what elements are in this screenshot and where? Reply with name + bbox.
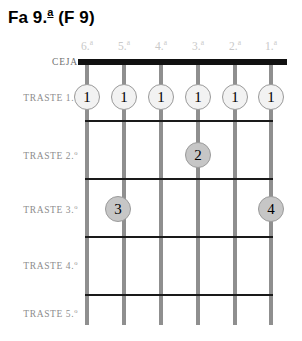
fingering-dots: 1 1 1 1 1 1 2 3 4 [0,0,302,341]
chord-diagram: Fa 9.a (F 9) 6.a 5.a 4.a 3.a 2.a 1.a CEJ… [0,0,302,341]
finger-dot-string4-fret1[interactable]: 1 [148,84,174,110]
finger-dot-string3-fret1[interactable]: 1 [185,84,211,110]
finger-dot-string2-fret1[interactable]: 1 [222,84,248,110]
finger-dot-string1-fret3[interactable]: 4 [258,196,284,222]
finger-dot-string6-fret1[interactable]: 1 [74,84,100,110]
finger-dot-string1-fret1[interactable]: 1 [258,84,284,110]
finger-dot-string5-fret3[interactable]: 3 [105,196,131,222]
finger-dot-string5-fret1[interactable]: 1 [111,84,137,110]
finger-dot-string3-fret2[interactable]: 2 [185,142,211,168]
